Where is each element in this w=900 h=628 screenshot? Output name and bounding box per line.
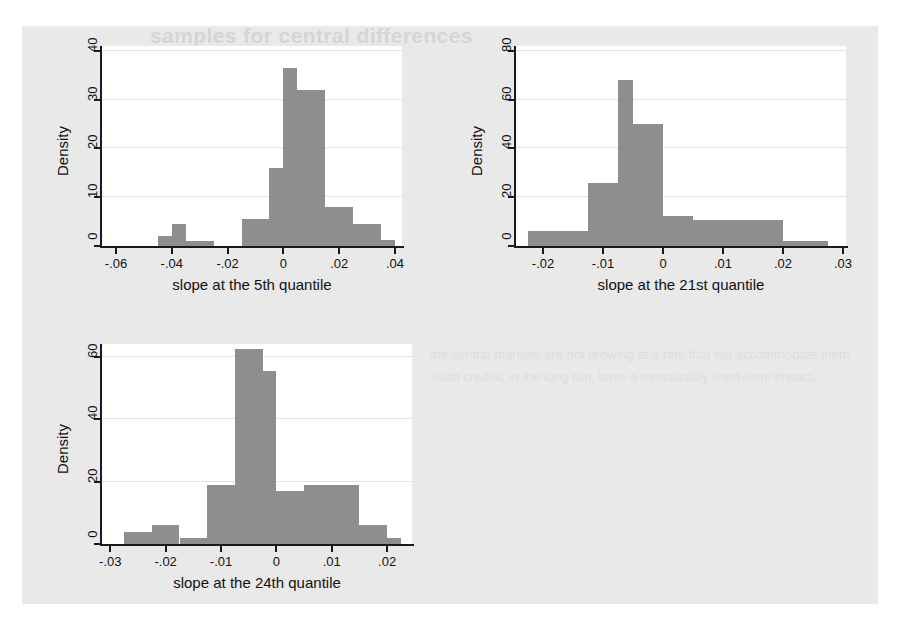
histogram-bar xyxy=(332,485,346,544)
histogram-bar xyxy=(648,124,663,246)
histogram-bar xyxy=(693,220,708,246)
y-axis-tick-label: 60 xyxy=(85,343,100,367)
x-axis-label: slope at the 5th quantile xyxy=(102,276,402,293)
x-axis-tick-label: .04 xyxy=(386,256,404,271)
x-axis-tick xyxy=(109,546,111,552)
y-axis-tick-label: 20 xyxy=(85,135,100,159)
histogram-bar xyxy=(346,485,360,544)
y-axis-tick-label: 40 xyxy=(499,135,514,159)
x-axis-label: slope at the 21st quantile xyxy=(516,276,846,293)
histogram-24th-quantile: 0204060-.03-.02-.010.01.02Densityslope a… xyxy=(40,336,430,598)
histogram-bar xyxy=(158,236,172,246)
y-axis-tick-label: 0 xyxy=(85,531,100,555)
histogram-bar xyxy=(304,485,318,544)
y-axis-tick-label: 20 xyxy=(85,468,100,492)
x-axis-tick xyxy=(662,248,664,254)
x-axis-tick xyxy=(602,248,604,254)
gridline xyxy=(102,196,402,197)
x-axis-tick-label: -.03 xyxy=(99,554,121,569)
histogram-bar xyxy=(708,220,723,246)
histogram-bar xyxy=(269,168,283,246)
histogram-bar xyxy=(318,485,332,544)
histogram-bar xyxy=(588,183,603,246)
gridline xyxy=(102,147,402,148)
x-axis-tick-label: .02 xyxy=(330,256,348,271)
x-axis-tick xyxy=(386,546,388,552)
x-axis-tick xyxy=(115,248,117,254)
gridline xyxy=(102,99,402,100)
histogram-bar xyxy=(152,525,166,544)
x-axis-line xyxy=(100,246,404,248)
histogram-bar xyxy=(373,525,387,544)
histogram-bar xyxy=(124,532,138,545)
histogram-bar xyxy=(738,220,753,246)
x-axis-tick-label: .03 xyxy=(834,256,852,271)
histogram-bar xyxy=(633,124,648,246)
histogram-bar xyxy=(325,207,339,246)
x-axis-tick-label: 0 xyxy=(280,256,287,271)
y-axis-tick-label: 30 xyxy=(85,86,100,110)
plot-area xyxy=(102,46,402,246)
x-axis-tick xyxy=(842,248,844,254)
figure-page: samples for central differences the cent… xyxy=(0,0,900,628)
histogram-bar xyxy=(172,224,186,246)
y-axis-tick-label: 20 xyxy=(499,184,514,208)
x-axis-tick xyxy=(165,546,167,552)
histogram-bar xyxy=(573,231,588,246)
x-axis-tick-label: -.04 xyxy=(161,256,183,271)
gridline xyxy=(102,50,402,51)
x-axis-tick-label: -.01 xyxy=(592,256,614,271)
histogram-bar xyxy=(367,224,381,246)
y-axis-tick-label: 40 xyxy=(85,37,100,61)
histogram-bar xyxy=(543,231,558,246)
histogram-5th-quantile: 010203040-.06-.04-.020.02.04Densityslope… xyxy=(40,38,420,298)
x-axis-tick-label: 0 xyxy=(273,554,280,569)
x-axis-tick xyxy=(227,248,229,254)
histogram-bar xyxy=(242,219,256,246)
x-axis-tick-label: -.01 xyxy=(210,554,232,569)
y-axis-label: Density xyxy=(468,126,485,176)
x-axis-tick-label: 0 xyxy=(659,256,666,271)
histogram-bar xyxy=(603,183,618,246)
histogram-bar xyxy=(138,532,152,545)
x-axis-tick-label: .02 xyxy=(774,256,792,271)
histogram-bar xyxy=(768,220,783,246)
plot-area xyxy=(102,344,412,544)
histogram-bar xyxy=(235,349,249,544)
histogram-bar xyxy=(723,220,738,246)
histogram-bar xyxy=(339,207,353,246)
x-axis-tick-label: -.06 xyxy=(105,256,127,271)
y-axis-label: Density xyxy=(54,126,71,176)
histogram-21st-quantile: 020406080-.02-.010.01.02.03Densityslope … xyxy=(448,34,868,302)
histogram-bar xyxy=(311,90,325,246)
x-axis-tick xyxy=(171,248,173,254)
histogram-bar xyxy=(255,219,269,246)
x-axis-tick xyxy=(542,248,544,254)
x-axis-tick xyxy=(275,546,277,552)
x-axis-tick xyxy=(394,248,396,254)
histogram-bar xyxy=(353,224,367,246)
y-axis-tick-label: 0 xyxy=(499,233,514,257)
histogram-bar xyxy=(207,485,221,544)
x-axis-tick xyxy=(722,248,724,254)
histogram-bar xyxy=(290,491,304,544)
x-axis-tick-label: -.02 xyxy=(216,256,238,271)
x-axis-tick xyxy=(331,546,333,552)
x-axis-tick-label: -.02 xyxy=(154,554,176,569)
x-axis-tick xyxy=(782,248,784,254)
histogram-bar xyxy=(558,231,573,246)
gridline xyxy=(516,147,846,148)
x-axis-tick-label: -.02 xyxy=(532,256,554,271)
x-axis-tick-label: .02 xyxy=(378,554,396,569)
histogram-bar xyxy=(221,485,235,544)
x-axis-tick-label: .01 xyxy=(323,554,341,569)
histogram-bar xyxy=(297,90,311,246)
x-axis-line xyxy=(100,544,414,546)
histogram-bar xyxy=(283,68,297,246)
x-axis-tick xyxy=(282,248,284,254)
histogram-bar xyxy=(663,216,678,246)
y-axis-tick-label: 40 xyxy=(85,406,100,430)
x-axis-tick xyxy=(338,248,340,254)
gridline xyxy=(516,99,846,100)
histogram-bar xyxy=(166,525,180,544)
